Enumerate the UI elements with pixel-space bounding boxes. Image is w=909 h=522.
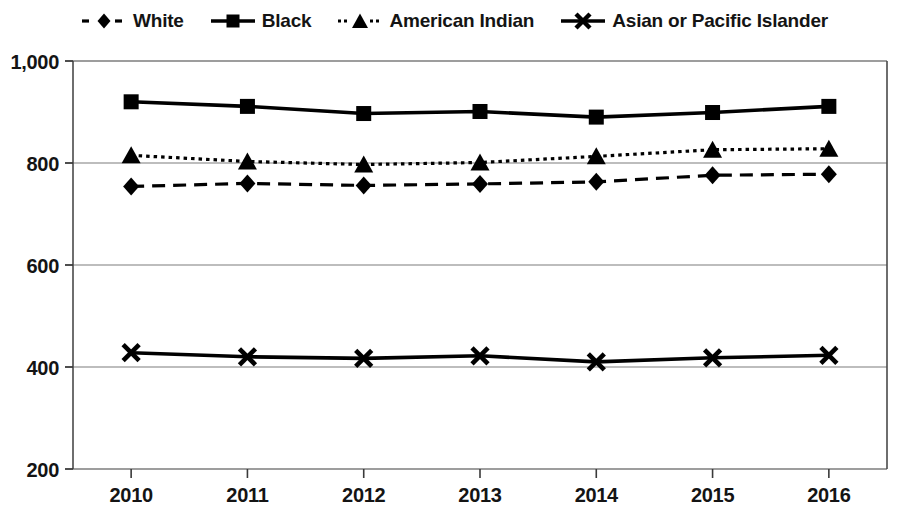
data-point-2015 — [705, 105, 720, 120]
y-axis-tick-label-1000: 1,000 — [10, 51, 59, 73]
data-point-2012 — [356, 176, 372, 194]
x-axis-tick-label-2011: 2011 — [226, 484, 268, 506]
x-axis-tick-label-2014: 2014 — [575, 484, 619, 506]
chart-container: White Black American Indian Asian o — [0, 0, 909, 522]
x-axis-tick-label-2015: 2015 — [691, 484, 734, 506]
data-point-2010 — [124, 94, 139, 109]
data-series-group — [122, 94, 839, 370]
line-chart-svg: 1,000800600400200 2010201120122013201420… — [0, 0, 909, 522]
data-point-2010 — [123, 177, 139, 195]
data-point-2013 — [473, 104, 488, 119]
x-axis-tick-label-2016: 2016 — [807, 484, 850, 506]
x-axis-tick-label-2012: 2012 — [342, 484, 385, 506]
data-point-2014 — [588, 173, 604, 191]
data-point-2016 — [821, 99, 836, 114]
data-point-2011 — [240, 99, 255, 114]
data-point-2015 — [703, 141, 722, 158]
y-axis-tick-label-200: 200 — [27, 459, 60, 481]
plot-area: 1,000800600400200 2010201120122013201420… — [0, 0, 909, 522]
y-axis-tick-label-400: 400 — [27, 357, 60, 379]
series-asian-or-pacific-islander — [123, 345, 837, 370]
axis-lines-group — [65, 61, 887, 478]
data-point-2016 — [821, 165, 837, 183]
series-black — [124, 94, 837, 124]
data-point-2014 — [589, 110, 604, 125]
gridlines-group — [73, 61, 887, 469]
data-point-2010 — [122, 146, 141, 163]
x-axis-labels-group: 2010201120122013201420152016 — [109, 484, 850, 506]
data-point-2012 — [356, 106, 371, 121]
y-axis-labels-group: 1,000800600400200 — [10, 51, 59, 481]
y-axis-tick-label-800: 800 — [27, 153, 60, 175]
series-american-indian — [122, 140, 839, 173]
data-point-2011 — [239, 174, 255, 192]
x-axis-tick-label-2013: 2013 — [458, 484, 501, 506]
x-axis-tick-label-2010: 2010 — [109, 484, 152, 506]
data-point-2013 — [472, 175, 488, 193]
data-point-2015 — [705, 166, 721, 184]
y-axis-tick-label-600: 600 — [27, 255, 60, 277]
